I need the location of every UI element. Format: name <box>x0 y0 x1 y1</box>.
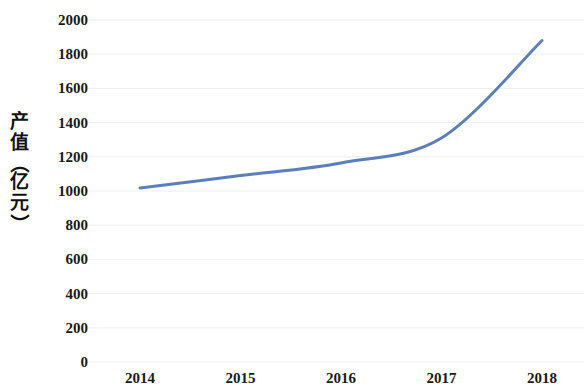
x-axis-tick-label: 2016 <box>326 370 356 387</box>
x-axis-tick-label: 2015 <box>226 370 256 387</box>
x-axis-tick-label: 2017 <box>427 370 457 387</box>
x-axis-tick-label: 2014 <box>125 370 155 387</box>
line-chart: 产 值 （ 亿 元 ） 0200400600800100012001400160… <box>0 0 586 389</box>
x-axis-tick-label: 2018 <box>527 370 557 387</box>
x-axis-tick-labels: 20142015201620172018 <box>0 0 586 389</box>
